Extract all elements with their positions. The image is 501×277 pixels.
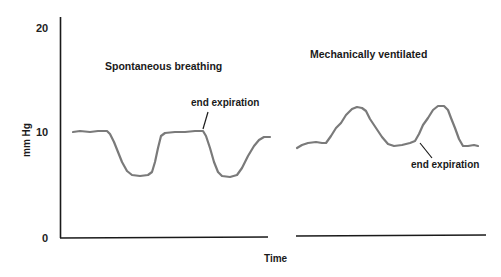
left-end-expiration-pointer — [203, 112, 208, 129]
pressure-chart: 20 10 0 mm Hg Time Spontaneous breathing… — [0, 0, 501, 277]
left-end-expiration-label: end expiration — [191, 97, 259, 108]
right-end-expiration-label: end expiration — [411, 159, 479, 170]
spontaneous-trace — [73, 131, 270, 177]
y-tick-20: 20 — [36, 22, 48, 34]
ventilated-trace — [297, 106, 478, 148]
x-axis-left — [60, 237, 268, 238]
y-tick-0: 0 — [42, 232, 48, 244]
right-end-expiration-pointer — [420, 143, 432, 158]
right-panel-title: Mechanically ventilated — [310, 48, 427, 60]
y-tick-10: 10 — [36, 126, 48, 138]
y-axis-label: mm Hg — [21, 123, 32, 157]
x-axis-right — [296, 235, 486, 236]
left-panel-title: Spontaneous breathing — [105, 60, 222, 72]
x-axis-label: Time — [264, 253, 288, 264]
